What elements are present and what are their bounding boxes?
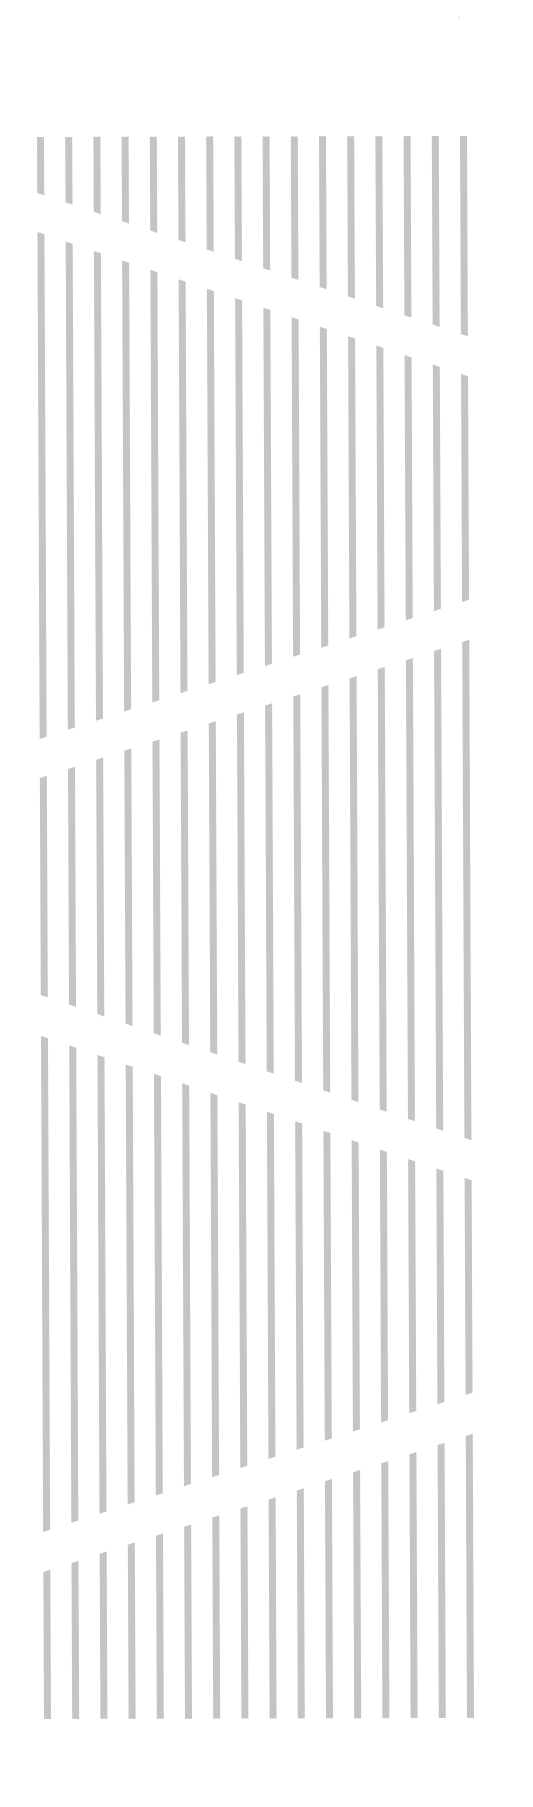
stripe-segment	[405, 355, 413, 620]
stripe-segment	[433, 365, 441, 612]
stripe-segment	[122, 137, 129, 224]
stripe-segment	[178, 137, 185, 243]
stripe-segment	[319, 136, 327, 289]
stripe-segment	[179, 279, 188, 693]
stripe-segment	[100, 1552, 108, 1719]
stripe-segment	[150, 270, 159, 703]
stripe-segment	[207, 289, 216, 684]
stripe-segment	[43, 1570, 51, 1719]
stripe-segment	[240, 1506, 248, 1718]
stripe-segment	[128, 1543, 136, 1719]
stripe-segment	[376, 346, 384, 630]
stripe-segment	[465, 1178, 473, 1395]
stripe-segment	[239, 1102, 248, 1468]
stripe-segment	[263, 308, 272, 666]
stripe-segment	[40, 776, 48, 998]
stripe-segment	[460, 136, 468, 336]
stripe-segment	[295, 1121, 303, 1450]
stripe-segment	[409, 1452, 417, 1718]
stripe-segment	[462, 640, 471, 1141]
stripe-segment	[353, 1470, 361, 1718]
stripe-segment	[404, 136, 412, 317]
striped-artwork	[0, 0, 533, 1807]
stripe-segment	[293, 694, 302, 1083]
stripe-segment	[65, 137, 72, 205]
stripe-segment	[375, 136, 383, 308]
stripe-segment	[291, 136, 299, 280]
stripe-segment	[432, 136, 440, 327]
stripe-segment	[378, 667, 387, 1112]
stripe-segment	[97, 1055, 106, 1514]
stripe-segment	[466, 1434, 474, 1718]
stripe-segment	[235, 298, 244, 675]
stripe-segment	[66, 241, 75, 729]
stripe-segment	[154, 1074, 163, 1496]
stripe-segment	[150, 137, 157, 233]
stripe-segment	[122, 260, 131, 711]
stripe-segment	[292, 317, 300, 657]
stripe-segment	[209, 721, 217, 1054]
stripe-segment	[325, 1479, 333, 1718]
stripe-segment	[436, 1169, 444, 1405]
stripe-segment	[212, 1515, 220, 1718]
stripe-segment	[406, 658, 415, 1121]
stripe-segment	[94, 251, 103, 721]
stripe-segment	[350, 676, 359, 1102]
stripe-segment	[210, 1093, 219, 1477]
stripe-segment	[381, 1461, 389, 1718]
stripe-segment	[408, 1159, 416, 1413]
stripe-segment	[352, 1140, 360, 1431]
stripe-segment	[265, 703, 274, 1073]
stripe-segment	[124, 749, 132, 1026]
stripe-segment	[41, 1036, 50, 1532]
stripe-segment	[126, 1064, 135, 1504]
stripe-segment	[93, 137, 100, 214]
stripe-segment	[206, 137, 214, 252]
stripe-segment	[269, 1497, 277, 1718]
stripe-segment	[320, 327, 328, 648]
stripe-segment	[182, 1083, 191, 1486]
stripe-segment	[263, 136, 271, 270]
stripe-segment	[69, 1045, 78, 1522]
stripe-segment	[156, 1533, 164, 1718]
stripe-segment	[152, 739, 160, 1035]
stripe-segment	[348, 336, 356, 638]
stripe-segment	[321, 685, 330, 1093]
stripe-segment	[68, 767, 76, 1007]
stripe-segment	[380, 1150, 388, 1423]
stripe-segment	[37, 232, 46, 739]
stripe-segment	[347, 136, 355, 298]
stripe-segment	[267, 1112, 276, 1459]
stripe-segment	[96, 758, 104, 1017]
stripe-segment	[461, 374, 469, 602]
stripe-segment	[37, 137, 44, 195]
stripe-segment	[434, 649, 443, 1131]
stripe-segment	[323, 1131, 331, 1441]
stripe-segment	[234, 137, 242, 262]
stripe-segment	[237, 712, 246, 1064]
stripe-segment	[297, 1488, 305, 1718]
stripe-segment	[181, 730, 189, 1045]
stripe-segment	[72, 1561, 80, 1719]
stripe-segment	[184, 1524, 192, 1718]
stripe-segment	[438, 1443, 446, 1718]
